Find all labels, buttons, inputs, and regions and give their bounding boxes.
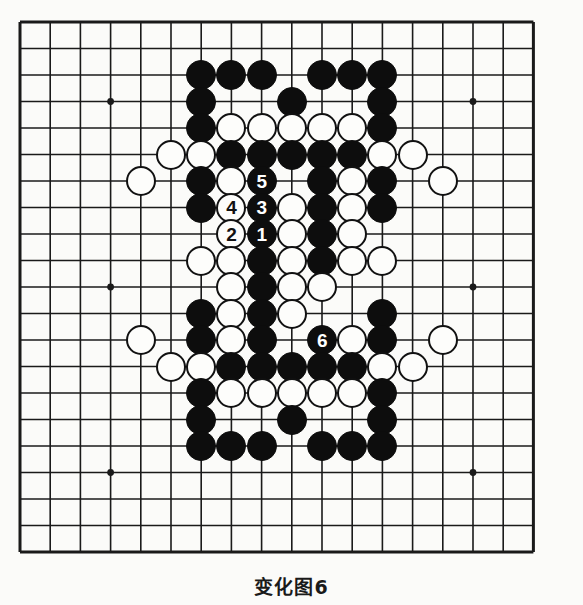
white-stone[interactable] — [337, 325, 367, 355]
black-stone[interactable] — [216, 140, 246, 170]
white-stone[interactable] — [216, 299, 246, 329]
black-stone[interactable] — [277, 352, 307, 382]
black-stone[interactable] — [367, 325, 397, 355]
white-stone[interactable] — [216, 113, 246, 143]
go-board[interactable]: 543216 — [0, 0, 583, 575]
black-stone[interactable] — [247, 431, 277, 461]
white-stone[interactable] — [216, 272, 246, 302]
white-stone[interactable] — [216, 246, 246, 276]
black-stone[interactable] — [216, 60, 246, 90]
stone-layer: 543216 — [0, 0, 583, 575]
move-stone-4[interactable]: 4 — [216, 193, 246, 223]
black-stone[interactable] — [186, 431, 216, 461]
black-stone[interactable] — [367, 299, 397, 329]
black-stone[interactable] — [186, 378, 216, 408]
black-stone[interactable] — [307, 246, 337, 276]
black-stone[interactable] — [367, 405, 397, 435]
black-stone[interactable] — [277, 405, 307, 435]
black-stone[interactable] — [307, 352, 337, 382]
black-stone[interactable] — [337, 140, 367, 170]
white-stone[interactable] — [126, 166, 156, 196]
black-stone[interactable] — [307, 166, 337, 196]
black-stone[interactable] — [247, 299, 277, 329]
black-stone[interactable] — [337, 431, 367, 461]
white-stone[interactable] — [277, 219, 307, 249]
black-stone[interactable] — [367, 113, 397, 143]
black-stone[interactable] — [277, 87, 307, 117]
white-stone[interactable] — [216, 166, 246, 196]
white-stone[interactable] — [307, 378, 337, 408]
black-stone[interactable] — [307, 219, 337, 249]
figure-caption: 变化图6 — [0, 572, 583, 599]
white-stone[interactable] — [398, 352, 428, 382]
white-stone[interactable] — [156, 352, 186, 382]
black-stone[interactable] — [247, 272, 277, 302]
white-stone[interactable] — [186, 352, 216, 382]
black-stone[interactable] — [247, 246, 277, 276]
black-stone[interactable] — [186, 113, 216, 143]
white-stone[interactable] — [186, 246, 216, 276]
black-stone[interactable] — [247, 352, 277, 382]
white-stone[interactable] — [277, 193, 307, 223]
diagram-page: 543216 变化图6 — [0, 0, 583, 605]
black-stone[interactable] — [277, 140, 307, 170]
black-stone[interactable] — [307, 140, 337, 170]
black-stone[interactable] — [186, 299, 216, 329]
white-stone[interactable] — [428, 325, 458, 355]
white-stone[interactable] — [398, 140, 428, 170]
move-stone-3[interactable]: 3 — [247, 193, 277, 223]
black-stone[interactable] — [247, 325, 277, 355]
black-stone[interactable] — [307, 431, 337, 461]
black-stone[interactable] — [186, 193, 216, 223]
black-stone[interactable] — [186, 87, 216, 117]
white-stone[interactable] — [337, 113, 367, 143]
black-stone[interactable] — [186, 60, 216, 90]
white-stone[interactable] — [337, 166, 367, 196]
white-stone[interactable] — [216, 378, 246, 408]
black-stone[interactable] — [247, 140, 277, 170]
black-stone[interactable] — [307, 60, 337, 90]
white-stone[interactable] — [367, 140, 397, 170]
white-stone[interactable] — [277, 272, 307, 302]
black-stone[interactable] — [367, 431, 397, 461]
white-stone[interactable] — [156, 140, 186, 170]
white-stone[interactable] — [337, 193, 367, 223]
white-stone[interactable] — [337, 378, 367, 408]
white-stone[interactable] — [186, 140, 216, 170]
white-stone[interactable] — [277, 378, 307, 408]
white-stone[interactable] — [247, 378, 277, 408]
white-stone[interactable] — [337, 246, 367, 276]
black-stone[interactable] — [367, 166, 397, 196]
white-stone[interactable] — [247, 113, 277, 143]
white-stone[interactable] — [216, 325, 246, 355]
move-stone-1[interactable]: 1 — [247, 219, 277, 249]
black-stone[interactable] — [367, 87, 397, 117]
white-stone[interactable] — [307, 272, 337, 302]
white-stone[interactable] — [307, 113, 337, 143]
white-stone[interactable] — [367, 246, 397, 276]
black-stone[interactable] — [367, 193, 397, 223]
black-stone[interactable] — [216, 352, 246, 382]
black-stone[interactable] — [307, 193, 337, 223]
white-stone[interactable] — [126, 325, 156, 355]
black-stone[interactable] — [247, 60, 277, 90]
black-stone[interactable] — [337, 60, 367, 90]
white-stone[interactable] — [277, 299, 307, 329]
white-stone[interactable] — [277, 246, 307, 276]
white-stone[interactable] — [277, 113, 307, 143]
black-stone[interactable] — [186, 405, 216, 435]
white-stone[interactable] — [367, 352, 397, 382]
black-stone[interactable] — [337, 352, 367, 382]
black-stone[interactable] — [186, 325, 216, 355]
black-stone[interactable] — [367, 60, 397, 90]
move-stone-6[interactable]: 6 — [307, 325, 337, 355]
move-number: 5 — [257, 171, 267, 190]
move-number: 3 — [257, 198, 267, 217]
white-stone[interactable] — [337, 219, 367, 249]
white-stone[interactable] — [428, 166, 458, 196]
move-stone-5[interactable]: 5 — [247, 166, 277, 196]
black-stone[interactable] — [367, 378, 397, 408]
black-stone[interactable] — [216, 431, 246, 461]
move-stone-2[interactable]: 2 — [216, 219, 246, 249]
black-stone[interactable] — [186, 166, 216, 196]
